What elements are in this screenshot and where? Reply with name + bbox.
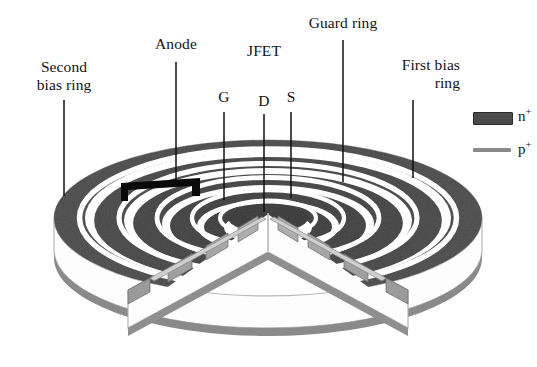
legend-swatch-n-plus (473, 112, 513, 125)
legend-p-base: p (518, 141, 526, 157)
label-drain: D (252, 92, 276, 110)
legend-swatch-p-plus (473, 148, 511, 152)
sdd-cutaway-figure: Second bias ringAnodeJFETGDSGuard ringFi… (0, 0, 537, 367)
legend-n-sup: + (526, 106, 532, 117)
label-second-bias-ring: Second bias ring (12, 58, 116, 94)
legend-label-n-plus: n+ (518, 106, 531, 125)
label-guard-ring: Guard ring (288, 14, 398, 32)
label-first-bias-ring: First bias ring (374, 56, 460, 92)
label-anode: Anode (140, 35, 212, 53)
legend-p-sup: + (526, 139, 532, 150)
label-gate: G (212, 88, 236, 106)
legend-n-base: n (518, 108, 526, 124)
label-source: S (280, 88, 302, 106)
label-jfet: JFET (238, 42, 290, 60)
legend-label-p-plus: p+ (518, 139, 531, 158)
